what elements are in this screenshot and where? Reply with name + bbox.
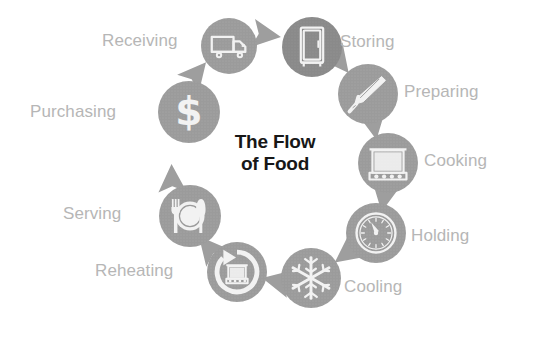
page-title: The Flow of Food [205,131,345,176]
temperature-gauge-icon [357,214,396,253]
stage-node-reheating[interactable] [207,242,267,302]
stage-label-serving: Serving [63,205,121,222]
stage-label-purchasing: Purchasing [30,103,116,120]
stage-node-cooling[interactable] [281,248,341,308]
stage-node-cooking[interactable] [358,133,418,193]
stage-node-receiving[interactable] [201,18,257,74]
stage-label-storing: Storing [340,33,395,50]
page-title-line-1: The Flow [205,131,345,153]
stage-label-preparing: Preparing [404,83,479,100]
stage-label-reheating: Reheating [95,262,173,279]
stage-node-serving[interactable] [159,185,221,247]
page-title-line-2: of Food [205,153,345,175]
stage-node-storing[interactable] [282,17,342,77]
stage-disc-receiving [201,18,257,74]
stage-label-cooling: Cooling [344,278,402,295]
stage-node-preparing[interactable] [338,64,398,124]
flow-of-food-diagram: $ [0,0,543,341]
stage-label-cooking: Cooking [424,152,487,169]
stage-label-holding: Holding [411,227,469,244]
stage-node-holding[interactable] [346,203,406,263]
dollar-sign-icon [175,89,202,134]
stage-disc-storing [282,17,342,77]
stage-label-receiving: Receiving [102,32,178,49]
plate-cutlery-icon [171,199,205,233]
